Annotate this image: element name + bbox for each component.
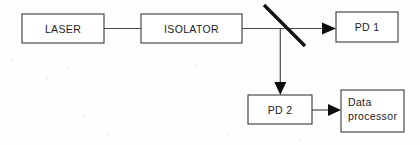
diagram-canvas: LASER ISOLATOR PD 1 PD 2 Data processor <box>0 0 420 145</box>
isolator-label: ISOLATOR <box>164 23 219 35</box>
arrowhead-to-data-processor <box>328 104 341 116</box>
arrowhead-to-pd2 <box>274 82 286 95</box>
optical-setup-diagram: LASER ISOLATOR PD 1 PD 2 Data processor <box>0 0 420 145</box>
laser-label: LASER <box>45 23 81 35</box>
node-isolator[interactable]: ISOLATOR <box>141 14 242 43</box>
node-pd1[interactable]: PD 1 <box>336 12 398 42</box>
beam-splitter <box>264 5 305 46</box>
node-laser[interactable]: LASER <box>22 14 104 43</box>
pd1-label: PD 1 <box>355 21 380 33</box>
arrowhead-to-pd1 <box>322 23 336 35</box>
pd2-label: PD 2 <box>268 104 293 116</box>
node-pd2[interactable]: PD 2 <box>248 95 312 124</box>
data-processor-label-line2: processor <box>348 110 397 122</box>
node-data-processor[interactable]: Data processor <box>341 90 404 132</box>
data-processor-label-line1: Data <box>348 96 372 108</box>
